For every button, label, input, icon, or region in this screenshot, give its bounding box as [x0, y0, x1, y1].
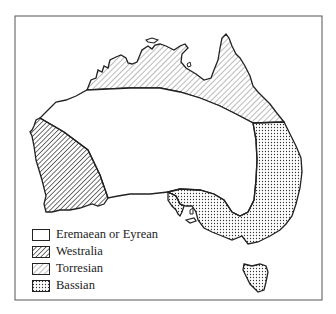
- legend-label: Eremaean or Eyrean: [56, 227, 158, 242]
- legend-item-bassian: Bassian: [32, 277, 158, 294]
- legend-item-torresian: Torresian: [32, 260, 158, 277]
- legend-label: Bassian: [56, 278, 95, 293]
- legend-swatch-dense-hatch: [32, 246, 50, 258]
- legend-item-westralia: Westralia: [32, 243, 158, 260]
- legend-label: Torresian: [56, 261, 103, 276]
- map-legend: Eremaean or Eyrean Westralia Torresian: [32, 226, 158, 294]
- legend-swatch-blank: [32, 229, 50, 241]
- legend-swatch-light-hatch: [32, 263, 50, 275]
- legend-label: Westralia: [56, 244, 103, 259]
- legend-swatch-dots: [32, 280, 50, 292]
- legend-item-eremaean: Eremaean or Eyrean: [32, 226, 158, 243]
